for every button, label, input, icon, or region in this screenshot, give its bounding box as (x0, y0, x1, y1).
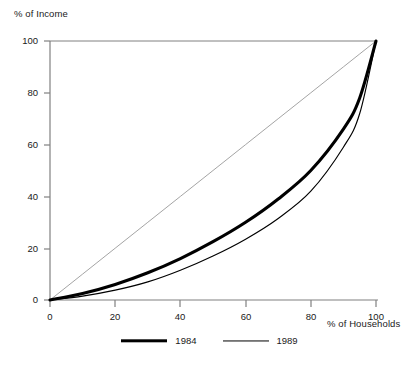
y-tick-label-0: 0 (8, 295, 38, 305)
y-tick-label-20: 20 (8, 244, 38, 254)
legend-label-1989: 1989 (277, 336, 298, 346)
y-tick-label-80: 80 (8, 88, 38, 98)
legend-swatch-thin-line-icon (223, 336, 269, 346)
lorenz-curve-chart: % of Income 100 80 60 (0, 0, 419, 367)
y-tick-label-100: 100 (8, 36, 38, 46)
y-axis-ticks (44, 41, 50, 300)
x-tick-label-60: 60 (231, 312, 261, 322)
x-tick-label-0: 0 (35, 312, 65, 322)
x-tick-label-40: 40 (165, 312, 195, 322)
legend-entry-1989: 1989 (223, 336, 298, 346)
legend-label-1984: 1984 (175, 336, 196, 346)
x-tick-label-80: 80 (296, 312, 326, 322)
x-axis-title: % of Households (327, 318, 400, 329)
legend-swatch-thick-line-icon (121, 336, 167, 346)
chart-legend: 1984 1989 (0, 336, 419, 346)
x-tick-label-20: 20 (100, 312, 130, 322)
legend-entry-1984: 1984 (121, 336, 196, 346)
y-tick-label-60: 60 (8, 140, 38, 150)
x-axis-ticks (50, 300, 376, 307)
y-tick-label-40: 40 (8, 192, 38, 202)
